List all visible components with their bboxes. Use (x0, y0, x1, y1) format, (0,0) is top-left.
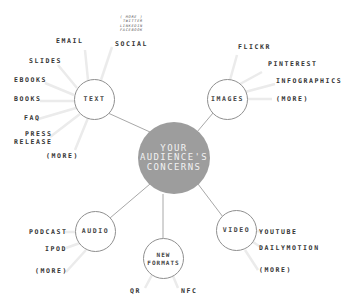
label-release: RELEASE (14, 139, 53, 147)
label-images-more: (MORE) (276, 96, 309, 104)
label-email: EMAIL (56, 38, 84, 46)
label-books: BOOKS (14, 96, 42, 104)
node-text-label: TEXT (83, 95, 105, 103)
node-new-formats: NEW FORMATS (143, 238, 184, 279)
label-podcast: PODCAST (29, 229, 68, 237)
hub-line-3: CONCERNS (140, 163, 208, 172)
label-ipod: IPOD (45, 246, 67, 254)
label-qr: QR (130, 288, 141, 296)
label-social: SOCIAL (115, 41, 148, 49)
label-text-more: (MORE) (46, 153, 79, 161)
label-video-more: (MORE) (259, 267, 292, 275)
label-audio-more: (MORE) (35, 268, 68, 276)
node-video-label: VIDEO (223, 226, 251, 234)
social-sub-facebook: FACEBOOK (120, 28, 143, 32)
label-dailymotion: DAILYMOTION (259, 245, 320, 253)
label-youtube: YOUTUBE (259, 229, 298, 237)
node-audio-label: AUDIO (82, 227, 110, 235)
audience-concerns-hub: YOUR AUDIENCE'S CONCERNS (138, 122, 210, 194)
label-flickr: FLICKR (238, 44, 271, 52)
label-slides: SLIDES (29, 58, 62, 66)
social-sublist: ( MORE ) TWITTER LINKEDIN FACEBOOK (120, 15, 143, 33)
label-faq: FAQ (24, 115, 41, 123)
node-images-label: IMAGES (211, 95, 244, 103)
label-nfc: NFC (181, 288, 198, 296)
node-video: VIDEO (216, 210, 257, 251)
label-ebooks: EBOOKS (14, 77, 47, 85)
label-infographics: INFOGRAPHICS (276, 78, 342, 86)
label-press-release: PRESS RELEASE (14, 131, 53, 147)
node-new-formats-line-2: FORMATS (147, 259, 179, 267)
node-text: TEXT (74, 79, 115, 120)
node-audio: AUDIO (75, 211, 116, 252)
label-pinterest: PINTEREST (268, 61, 318, 69)
node-images: IMAGES (207, 79, 248, 120)
node-new-formats-line-1: NEW (147, 251, 179, 259)
